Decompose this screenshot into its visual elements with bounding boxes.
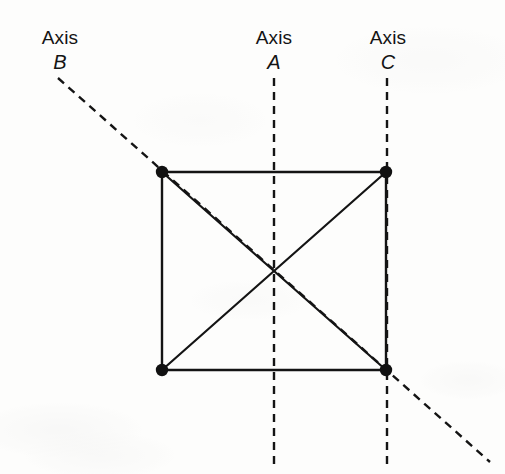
axis-b-label-word: Axis: [12, 28, 108, 49]
figure-canvas: Axis B Axis A Axis C: [0, 0, 505, 474]
vertex-top-right: [380, 166, 392, 178]
axis-a-label-letter: A: [228, 52, 320, 74]
axis-c-label-letter: C: [342, 52, 434, 74]
vertex-top-left: [156, 166, 168, 178]
axis-a-label: Axis A: [228, 28, 320, 73]
square-diagonals: [162, 172, 386, 370]
vertex-bottom-right: [380, 364, 392, 376]
vertex-bottom-left: [156, 364, 168, 376]
axis-b-label-letter: B: [12, 52, 108, 74]
axis-c-label: Axis C: [342, 28, 434, 73]
axis-c-label-word: Axis: [342, 28, 434, 49]
axis-a-label-word: Axis: [228, 28, 320, 49]
axis-b-label: Axis B: [12, 28, 108, 73]
